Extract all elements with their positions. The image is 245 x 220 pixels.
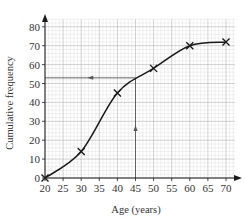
y-tick-label: 80 bbox=[29, 21, 41, 33]
y-axis-arrow-icon bbox=[42, 14, 48, 22]
cumulative-frequency-chart: 202530354045505560657001020304050607080 … bbox=[0, 0, 245, 220]
x-tick-label: 70 bbox=[221, 182, 233, 194]
x-tick-label: 55 bbox=[166, 182, 178, 194]
x-tick-label: 45 bbox=[130, 182, 142, 194]
y-tick-label: 40 bbox=[29, 96, 41, 108]
x-tick-label: 40 bbox=[112, 182, 124, 194]
x-axis-title: Age (years) bbox=[111, 204, 161, 216]
y-tick-label: 20 bbox=[29, 134, 41, 146]
y-tick-label: 10 bbox=[29, 153, 41, 165]
y-tick-label: 50 bbox=[29, 78, 41, 90]
x-tick-label: 20 bbox=[40, 182, 52, 194]
arrow-left-icon bbox=[87, 76, 93, 80]
y-tick-label: 30 bbox=[29, 115, 41, 127]
y-axis-title: Cumulative frequency bbox=[4, 55, 15, 149]
arrow-up-icon bbox=[134, 125, 138, 131]
x-tick-label: 30 bbox=[76, 182, 88, 194]
x-tick-label: 65 bbox=[202, 182, 214, 194]
x-tick-label: 60 bbox=[184, 182, 196, 194]
axes bbox=[42, 14, 242, 181]
y-tick-label: 0 bbox=[35, 172, 41, 184]
x-tick-label: 25 bbox=[58, 182, 70, 194]
y-tick-label: 60 bbox=[29, 59, 41, 71]
x-tick-label: 50 bbox=[148, 182, 160, 194]
x-tick-label: 35 bbox=[94, 182, 106, 194]
x-axis-arrow-icon bbox=[234, 175, 242, 181]
y-tick-label: 70 bbox=[29, 40, 41, 52]
